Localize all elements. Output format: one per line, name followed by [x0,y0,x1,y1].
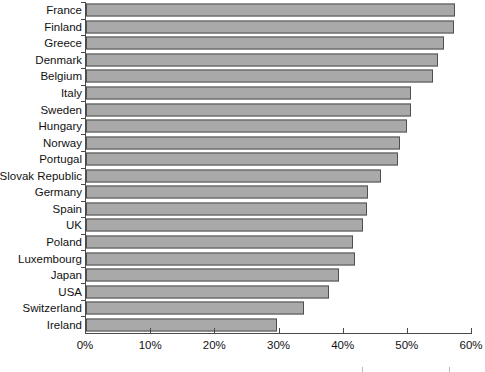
category-label: Finland [44,20,82,33]
category-label: UK [66,219,82,232]
bar [86,219,363,232]
bar-row: Japan [0,267,485,284]
category-label: Germany [35,186,82,199]
bar-row: Luxembourg [0,250,485,267]
category-label: France [46,4,82,17]
bar [86,70,433,83]
category-label: Belgium [40,70,82,83]
category-label: Denmark [35,53,82,66]
bar-row: Spain [0,201,485,218]
category-label: Slovak Republic [0,169,82,182]
x-axis-tick-label: 60% [459,339,482,352]
bar-row: Greece [0,35,485,52]
bar-row: Denmark [0,52,485,69]
category-label: Switzerland [23,302,82,315]
edge-artifact-left [362,367,363,372]
bar [86,285,329,298]
bar-row: Hungary [0,118,485,135]
x-axis-tick-label: 20% [203,339,226,352]
bar [86,169,381,182]
category-label: Sweden [40,103,82,116]
bar-rows: FranceFinlandGreeceDenmarkBelgiumItalySw… [0,2,485,333]
bar-row: Ireland [0,316,485,333]
bar [86,20,454,33]
category-label: Portugal [39,153,82,166]
bar-row: USA [0,283,485,300]
bar [86,153,398,166]
category-label: Greece [44,37,82,50]
category-label: Hungary [39,120,82,133]
bar-row: Finland [0,19,485,36]
category-label: Ireland [47,318,82,331]
bar [86,202,367,215]
bar-row: Italy [0,85,485,102]
bar-row: Portugal [0,151,485,168]
bar [86,186,368,199]
bar-row: France [0,2,485,19]
bar-row: Switzerland [0,300,485,317]
x-axis-tick-label: 40% [331,339,354,352]
bar [86,318,277,331]
bar-row: Slovak Republic [0,168,485,185]
bar [86,136,400,149]
x-axis-tick-label: 30% [267,339,290,352]
x-axis-tick-label: 50% [395,339,418,352]
bar-row: Belgium [0,68,485,85]
category-label: USA [58,285,82,298]
bar-row: Norway [0,134,485,151]
bar [86,103,411,116]
bar-row: Poland [0,234,485,251]
bar [86,53,438,66]
bar [86,302,304,315]
bar [86,252,355,265]
category-label: Japan [51,269,82,282]
bar [86,120,407,133]
bar-chart: FranceFinlandGreeceDenmarkBelgiumItalySw… [0,0,485,372]
category-label: Italy [61,87,82,100]
bar [86,235,353,248]
bar [86,87,411,100]
category-label: Luxembourg [18,252,82,265]
x-axis-tick-label: 10% [139,339,162,352]
x-axis-line [85,333,471,334]
bar [86,269,339,282]
bar-row: Sweden [0,101,485,118]
bar [86,37,444,50]
edge-artifact-right [449,367,450,372]
bar [86,4,455,17]
bar-row: UK [0,217,485,234]
category-label: Poland [46,235,82,248]
category-label: Norway [43,136,82,149]
x-axis-tick-label: 0% [77,339,94,352]
bar-row: Germany [0,184,485,201]
category-label: Spain [53,202,82,215]
